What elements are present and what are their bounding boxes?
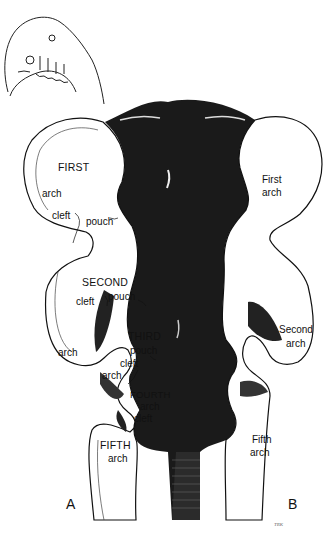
panel-letter-b: B bbox=[288, 496, 297, 512]
label-third-pouch: pouch bbox=[130, 345, 157, 356]
label-fifth-title: FIFTH bbox=[100, 440, 131, 451]
label-b-fifth-arch-2: arch bbox=[250, 447, 269, 458]
label-b-fifth-arch-1: Fifth bbox=[252, 434, 271, 445]
label-first-cleft: cleft bbox=[52, 210, 70, 221]
panel-letter-a: A bbox=[66, 496, 75, 512]
label-fifth-arch: arch bbox=[108, 453, 127, 464]
label-third-arch: arch bbox=[102, 370, 121, 381]
label-second-cleft: cleft bbox=[76, 296, 94, 307]
label-first-pouch: pouch bbox=[86, 216, 113, 227]
label-second-pouch: pouch bbox=[108, 291, 135, 302]
artist-signature: TRK bbox=[274, 522, 283, 527]
label-b-first-arch-2: arch bbox=[262, 187, 281, 198]
label-b-second-arch-1: Second bbox=[279, 324, 313, 335]
label-fourth-title: FOURTH bbox=[130, 389, 171, 400]
label-second-title: SECOND bbox=[82, 277, 128, 288]
label-third-title: THIRD bbox=[128, 331, 161, 342]
label-first-arch: arch bbox=[42, 188, 61, 199]
label-fourth-cleft: cleft bbox=[134, 413, 152, 424]
label-first-arch-title: FIRST bbox=[58, 162, 89, 173]
pharyngeal-arch-drawing bbox=[0, 0, 335, 535]
label-third-cleft: cleft bbox=[120, 358, 138, 369]
embryo-inset bbox=[5, 17, 104, 104]
label-b-first-arch-1: First bbox=[262, 174, 281, 185]
label-b-second-arch-2: arch bbox=[286, 338, 305, 349]
label-fourth-arch: arch bbox=[140, 401, 159, 412]
label-second-arch: arch bbox=[58, 347, 77, 358]
